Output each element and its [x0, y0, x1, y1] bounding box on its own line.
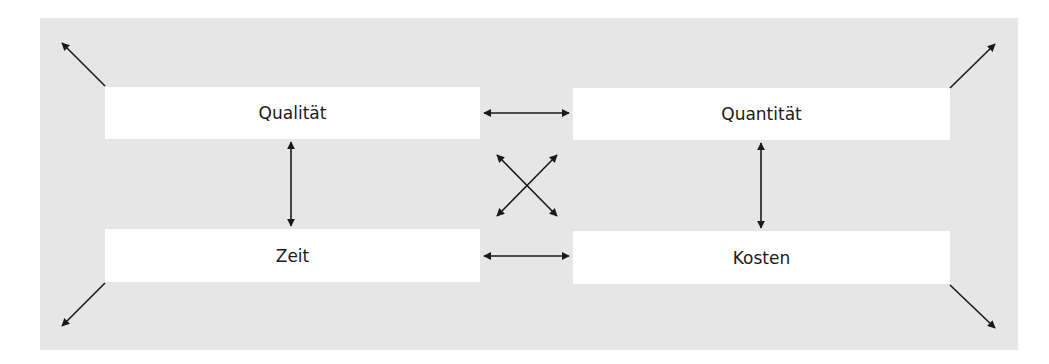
node-qualitaet: Qualität	[105, 87, 480, 139]
node-kosten: Kosten	[573, 231, 950, 284]
arrow-out-qualitaet	[62, 43, 105, 86]
arrow-out-kosten	[950, 285, 995, 328]
arrow-out-zeit	[62, 283, 105, 326]
node-quantitaet: Quantität	[573, 88, 950, 140]
node-label: Quantität	[721, 104, 801, 124]
node-zeit: Zeit	[105, 229, 480, 282]
arrows-layer	[0, 0, 1049, 364]
node-label: Zeit	[276, 246, 310, 266]
node-label: Qualität	[259, 103, 327, 123]
arrow-out-quantitaet	[950, 44, 995, 88]
node-label: Kosten	[733, 248, 790, 268]
